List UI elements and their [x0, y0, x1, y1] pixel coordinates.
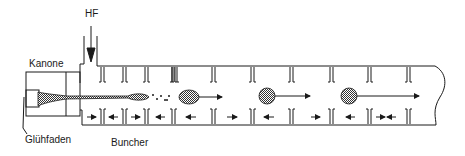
linac-diagram: HF Kanone Glühfaden Buncher	[0, 0, 465, 156]
kanone-label: Kanone	[29, 59, 63, 69]
buncher-label: Buncher	[111, 138, 148, 148]
electron-bunches	[179, 88, 419, 104]
electron-beam	[38, 92, 170, 106]
hf-arrow-icon	[87, 26, 95, 62]
hf-label: HF	[85, 9, 98, 19]
gluehfaden-label: Glühfaden	[25, 135, 71, 145]
hf-input	[80, 36, 97, 83]
lower-irises	[99, 109, 412, 124]
linac-schematic	[0, 0, 465, 156]
upper-irises	[99, 67, 412, 82]
